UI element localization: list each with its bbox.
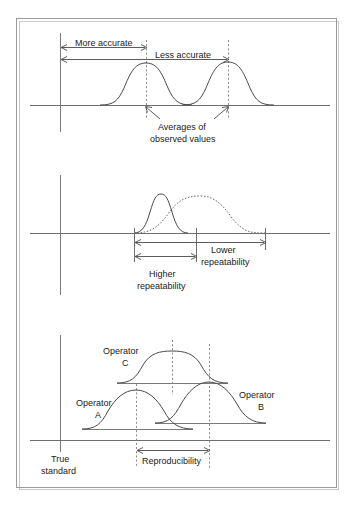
lower-repeatability-label: repeatability (201, 257, 250, 267)
higher-repeatability-label: repeatability (137, 281, 186, 291)
averages-leader-right-line (214, 107, 228, 119)
lower-label: Lower (211, 245, 236, 255)
operator-a-word-label: Operator (76, 398, 112, 408)
averages-leader-left-line (146, 107, 160, 119)
standard-label: standard (41, 466, 76, 476)
operator-c-word-label: Operator (103, 346, 139, 356)
higher-repeatability-curve (134, 194, 188, 233)
figure-frame (17, 19, 337, 488)
averages-of-label: Averages of (158, 122, 206, 132)
panel-accuracy: More accurate Less accurate Averages of … (30, 33, 330, 144)
figure-container: More accurate Less accurate Averages of … (0, 0, 354, 506)
observed-values-label: observed values (150, 134, 216, 144)
operator-b-word-label: Operator (239, 390, 275, 400)
operator-b-letter-label: B (258, 402, 264, 412)
operator-a-letter-label: A (95, 410, 101, 420)
frame-shadow (20, 22, 339, 490)
panel-reproducibility: Operator C Operator A Operator B Reprodu… (30, 335, 330, 476)
less-accurate-label: Less accurate (155, 50, 211, 60)
reproducibility-label: Reproducibility (142, 456, 202, 466)
higher-label: Higher (149, 269, 176, 279)
panel-repeatability: Lower repeatability Higher repeatability (30, 175, 330, 295)
more-accurate-label: More accurate (75, 38, 133, 48)
gauge-rr-diagram: More accurate Less accurate Averages of … (0, 0, 354, 506)
operator-c-letter-label: C (122, 358, 129, 368)
operator-b-curve (155, 382, 266, 423)
true-label: True (51, 454, 69, 464)
